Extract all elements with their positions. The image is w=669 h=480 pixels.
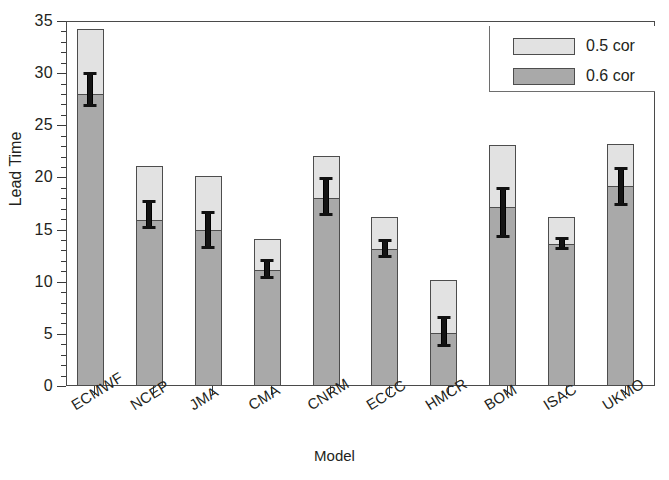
error-bar-cap-lower	[143, 226, 156, 229]
error-bar-cap-lower	[84, 104, 97, 107]
x-tick-label-jma: JMA	[186, 383, 221, 414]
y-tick-major	[57, 73, 66, 74]
bar-chart-figure: 05101520253035 Lead Time ECMWFNCEPJMACMA…	[0, 0, 669, 480]
y-tick-label: 35	[35, 12, 53, 30]
y-tick-label: 10	[35, 273, 53, 291]
error-bar-cap-upper	[496, 187, 509, 190]
error-bar-cap-lower	[614, 203, 627, 206]
bar-segment-0-6-cor	[371, 249, 398, 386]
error-bar-jma	[205, 211, 211, 250]
bar-segment-0-6-cor	[77, 94, 104, 386]
y-tick-major	[57, 386, 66, 387]
error-bar-cap-lower	[202, 246, 215, 249]
error-bar-cap-upper	[555, 237, 568, 240]
error-bar-cap-upper	[614, 167, 627, 170]
error-bar-cap-upper	[84, 72, 97, 75]
bar-segment-0-6-cor	[254, 270, 281, 386]
error-bar-cap-lower	[555, 247, 568, 250]
bar-segment-0-6-cor	[607, 186, 634, 386]
y-tick-label: 0	[44, 377, 53, 395]
error-bar-cap-upper	[378, 239, 391, 242]
error-bar-cap-lower	[378, 255, 391, 258]
legend-label: 0.6 cor	[586, 67, 635, 85]
legend-item-0-6-cor: 0.6 cor	[513, 67, 635, 85]
error-bar-ncep	[146, 200, 152, 228]
legend-swatch	[513, 68, 575, 85]
legend-label: 0.5 cor	[586, 37, 635, 55]
y-tick-major	[57, 282, 66, 283]
error-bar-cap-lower	[261, 276, 274, 279]
y-tick-major	[57, 21, 66, 22]
error-bar-cap-upper	[437, 316, 450, 319]
error-bar-cap-upper	[143, 200, 156, 203]
bar-bom	[489, 145, 516, 386]
y-tick-major	[57, 230, 66, 231]
error-bar-cap-upper	[320, 177, 333, 180]
y-tick-label: 30	[35, 64, 53, 82]
error-bar-cap-upper	[202, 211, 215, 214]
bar-ncep	[136, 166, 163, 386]
y-tick-major	[57, 334, 66, 335]
error-bar-cap-upper	[261, 259, 274, 262]
legend-item-0-5-cor: 0.5 cor	[513, 37, 635, 55]
y-tick-label: 20	[35, 168, 53, 186]
y-tick-major	[57, 125, 66, 126]
bar-segment-0-6-cor	[136, 220, 163, 386]
error-bar-cap-lower	[320, 213, 333, 216]
y-tick-label: 5	[44, 325, 53, 343]
bar-jma	[195, 176, 222, 386]
error-bar-ecmwf	[87, 72, 93, 106]
error-bar-cap-lower	[496, 235, 509, 238]
error-bar-bom	[500, 187, 506, 238]
error-bar-cnrm	[323, 177, 329, 216]
bar-segment-0-6-cor	[313, 198, 340, 386]
bar-segment-0-6-cor	[195, 230, 222, 386]
y-tick-label: 25	[35, 116, 53, 134]
x-axis-title: Model	[0, 447, 669, 464]
bar-segment-0-6-cor	[548, 244, 575, 386]
y-tick-major	[57, 177, 66, 178]
error-bar-hmcr	[441, 316, 447, 347]
legend-swatch	[513, 38, 575, 55]
error-bar-ukmo	[618, 167, 624, 206]
error-bar-cap-lower	[437, 344, 450, 347]
legend: 0.5 cor0.6 cor	[489, 26, 655, 92]
y-tick-label: 15	[35, 221, 53, 239]
y-axis-title: Lead Time	[7, 109, 25, 229]
